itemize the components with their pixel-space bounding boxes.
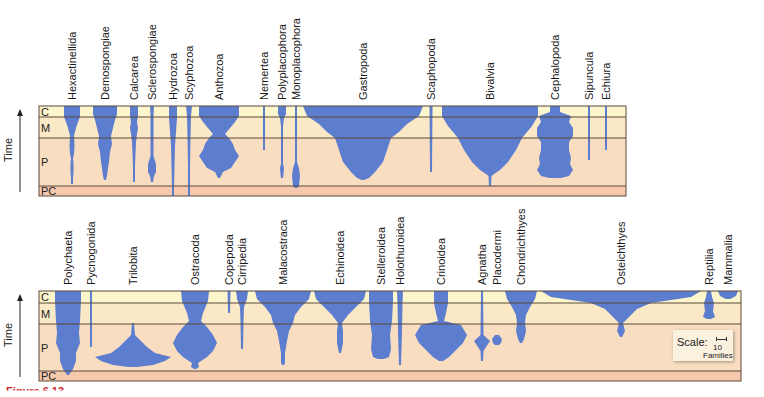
period-label-pc: PC: [41, 185, 56, 197]
taxon-label: Placodermi: [491, 230, 503, 285]
arrowhead-icon: [17, 294, 23, 301]
taxon-label: Cirripedia: [236, 237, 248, 285]
panel-bottom: PolychaetaPycnogonidaTrilobitaOstracodaC…: [2, 208, 741, 382]
scale-legend: Scale: 10 Families: [673, 330, 733, 361]
period-label-m: M: [41, 122, 50, 134]
taxon-label: Polychaeta: [62, 230, 74, 285]
taxon-label: Sclerospongiae: [146, 24, 158, 100]
period-label-p: P: [41, 156, 48, 168]
taxon-label: Agnatha: [476, 243, 488, 285]
spindle-diagram-canvas: HexactinellidaDemospongiaeCalcareaSclero…: [0, 0, 764, 397]
scale-bar-icon: [716, 337, 727, 341]
time-axis-label: Time: [2, 138, 14, 162]
panel-top: HexactinellidaDemospongiaeCalcareaSclero…: [2, 17, 626, 197]
taxon-label: Crinoidea: [435, 237, 447, 285]
spindle-pycnogonida: [90, 291, 92, 347]
taxon-label: Anthozoa: [213, 53, 225, 100]
taxon-label: Trilobita: [127, 245, 139, 285]
taxon-label: Hydrozoa: [167, 52, 179, 100]
evolution-spindle-diagram: HexactinellidaDemospongiaeCalcareaSclero…: [0, 0, 764, 397]
taxon-label: Malacostraca: [277, 219, 289, 285]
period-label-pc: PC: [41, 370, 56, 382]
taxon-label: Demospongiae: [99, 26, 111, 100]
taxon-label: Ostracoda: [189, 233, 201, 285]
taxon-label: Bivalvia: [484, 61, 496, 100]
taxon-label: Pycnogonida: [85, 221, 97, 285]
taxon-label: Scaphopoda: [425, 37, 437, 100]
taxon-label: Monoplacophora: [290, 17, 302, 100]
period-label-m: M: [41, 308, 50, 320]
spindle-nemertea: [263, 106, 265, 150]
taxon-label: Chondrichthyes: [515, 208, 527, 285]
taxon-label: Nemertea: [258, 51, 270, 100]
taxon-label: Hexactinellida: [66, 31, 78, 100]
arrowhead-icon: [17, 109, 23, 116]
taxon-label: Holothuroidea: [394, 216, 406, 285]
time-axis-label: Time: [2, 323, 14, 347]
period-label-p: P: [41, 342, 48, 354]
period-label-c: C: [41, 291, 49, 303]
taxon-label: Stelleroidea: [375, 226, 387, 285]
taxon-label: Calcarea: [128, 55, 140, 100]
taxon-label: Gastropoda: [357, 42, 369, 100]
taxon-label: Scyphozoa: [183, 45, 195, 100]
taxon-label: Polyplacophora: [276, 23, 288, 100]
taxon-label: Echinoidea: [334, 230, 346, 285]
period-label-c: C: [41, 106, 49, 118]
taxon-label: Mammalia: [722, 233, 734, 285]
taxon-label: Reptilia: [703, 247, 715, 285]
taxon-label: Cephalopoda: [549, 34, 561, 100]
band-pc: [39, 371, 741, 381]
scale-unit: Families: [703, 351, 733, 360]
spindle-scaphopoda: [430, 106, 433, 172]
taxon-label: Osteichthyes: [615, 221, 627, 285]
taxon-label: Copepoda: [223, 233, 235, 285]
taxon-label: Sipuncula: [583, 51, 595, 100]
spindle-echiura: [605, 106, 607, 150]
spindle-stelleroidea: [369, 291, 393, 359]
spindle-copepoda: [228, 291, 231, 313]
band-pc: [39, 186, 626, 196]
scale-label: Scale:: [677, 336, 708, 348]
taxon-label: Echiura: [600, 62, 612, 100]
spindle-sipuncula: [588, 106, 590, 160]
band-p: [39, 138, 626, 186]
